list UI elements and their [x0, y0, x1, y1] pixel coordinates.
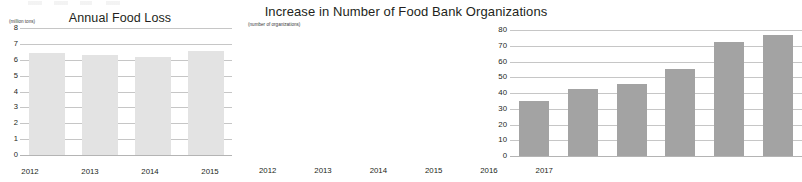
x-label-slot: 2014	[132, 160, 168, 178]
x-label-slot: 2015	[192, 160, 228, 178]
y-axis-tick-label: 6	[14, 56, 18, 64]
x-axis-tick-label: 2016	[480, 166, 497, 175]
y-axis-unit-label: (number of organizations)	[248, 22, 300, 27]
bar-series	[510, 30, 802, 156]
y-axis-tick-label: 2	[14, 119, 18, 127]
x-axis-tick-label: 2013	[81, 167, 98, 176]
gridline	[510, 156, 802, 157]
x-label-slot: 2012	[12, 160, 48, 178]
x-axis-tick-label: 2013	[314, 166, 331, 175]
bar	[135, 57, 171, 155]
y-axis-tick-label: 5	[14, 72, 18, 80]
bar	[519, 101, 549, 156]
plot-area: 876543210	[20, 28, 232, 155]
y-axis-tick-labels: 876543210	[6, 28, 18, 155]
bar-slot	[82, 28, 118, 155]
bar	[188, 51, 224, 155]
x-axis-tick-label: 2014	[141, 167, 158, 176]
x-axis-tick-label: 2014	[370, 166, 387, 175]
bar-slot	[29, 28, 65, 155]
chart-title: Increase in Number of Food Bank Organiza…	[240, 4, 572, 19]
bar-slot	[568, 30, 598, 156]
bar-slot	[188, 28, 224, 155]
y-axis-tick-label: 40	[498, 89, 507, 97]
x-label-slot: 2013	[72, 160, 108, 178]
chart-annual-food-loss: Annual Food Loss (million tons) 87654321…	[0, 0, 240, 182]
bar-slot	[763, 30, 793, 156]
y-axis-tick-label: 60	[498, 58, 507, 66]
x-label-slot: 2016	[474, 159, 504, 177]
y-axis-tick-label: 50	[498, 73, 507, 81]
x-axis-tick-label: 2012	[21, 167, 38, 176]
bar	[568, 89, 598, 156]
bar	[29, 53, 65, 155]
y-axis-tick-label: 0	[14, 151, 18, 159]
y-axis-tick-label: 3	[14, 104, 18, 112]
bar	[763, 35, 793, 156]
y-axis-tick-label: 1	[14, 135, 18, 143]
x-axis-tick-label: 2015	[425, 166, 442, 175]
x-label-slot: 2017	[529, 159, 559, 177]
bar	[714, 42, 744, 156]
y-axis-tick-label: 8	[14, 24, 18, 32]
x-axis-tick-labels: 201220132014201520162017	[240, 159, 572, 177]
y-axis-tick-label: 7	[14, 40, 18, 48]
x-label-slot: 2013	[308, 159, 338, 177]
y-axis-tick-label: 70	[498, 42, 507, 50]
bar-series	[20, 28, 232, 155]
bar	[82, 55, 118, 155]
bar	[617, 84, 647, 156]
bar-slot	[519, 30, 549, 156]
chart-title: Annual Food Loss	[0, 11, 240, 25]
y-axis-tick-label: 80	[498, 26, 507, 34]
y-axis-tick-label: 4	[14, 88, 18, 96]
y-axis-tick-label: 30	[498, 105, 507, 113]
y-axis-tick-label: 20	[498, 121, 507, 129]
bar-slot	[665, 30, 695, 156]
x-axis-tick-labels: 2012201320142015	[0, 160, 240, 178]
x-label-slot: 2015	[419, 159, 449, 177]
bar-slot	[617, 30, 647, 156]
x-axis-tick-label: 2015	[201, 167, 218, 176]
y-axis-tick-labels: 80706050403020100	[488, 30, 507, 156]
plot-area: 80706050403020100	[510, 30, 802, 156]
bar-slot	[714, 30, 744, 156]
x-axis-tick-label: 2017	[536, 166, 553, 175]
y-axis-tick-label: 10	[498, 136, 507, 144]
gridline	[20, 155, 232, 156]
chart-food-bank-organizations: Increase in Number of Food Bank Organiza…	[240, 0, 572, 182]
x-label-slot: 2014	[363, 159, 393, 177]
bar-slot	[135, 28, 171, 155]
bar	[665, 69, 695, 156]
x-label-slot: 2012	[253, 159, 283, 177]
x-axis-tick-label: 2012	[259, 166, 276, 175]
